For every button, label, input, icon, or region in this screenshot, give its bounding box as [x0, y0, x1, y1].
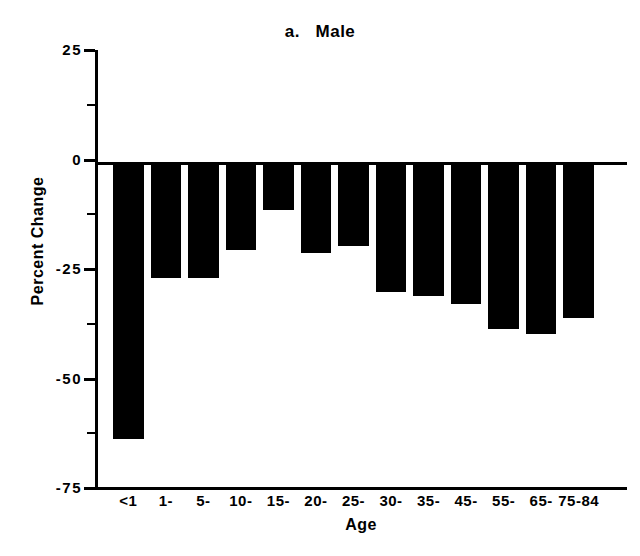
bar: [338, 164, 369, 246]
y-tick-label: 0: [4, 151, 82, 168]
bar: [263, 164, 294, 210]
bar: [413, 164, 444, 296]
y-tick-mark: [84, 487, 95, 490]
bar: [451, 164, 482, 304]
y-tick-label: 25: [4, 41, 82, 58]
y-tick-mark-minor: [87, 432, 95, 434]
bar: [226, 164, 257, 250]
x-axis-ticks: <11-5-10-15-20-25-30-35-45-55-65-75-84: [95, 492, 640, 516]
bar: [563, 164, 594, 318]
bar: [113, 164, 144, 439]
y-tick-label: -50: [4, 370, 82, 387]
y-tick-mark: [84, 49, 95, 52]
bar: [488, 164, 519, 329]
bar: [151, 164, 182, 278]
y-tick-mark-minor: [87, 104, 95, 106]
bar-chart-figure: a. Male Percent Change 250-25-50-75 <11-…: [0, 0, 640, 556]
x-tick-label: 75-84: [549, 492, 609, 509]
y-tick-mark: [84, 159, 95, 162]
plot-area: [95, 50, 627, 488]
bar: [376, 164, 407, 292]
bar: [188, 164, 219, 278]
bar: [301, 164, 332, 253]
chart-title: a. Male: [0, 22, 640, 42]
bar: [526, 164, 557, 334]
y-tick-mark: [84, 378, 95, 381]
y-tick-mark-minor: [87, 323, 95, 325]
y-tick-label: -25: [4, 260, 82, 277]
y-tick-label: -75: [4, 479, 82, 496]
x-axis-title: Age: [95, 516, 627, 534]
y-tick-mark: [84, 268, 95, 271]
y-tick-mark-minor: [87, 213, 95, 215]
